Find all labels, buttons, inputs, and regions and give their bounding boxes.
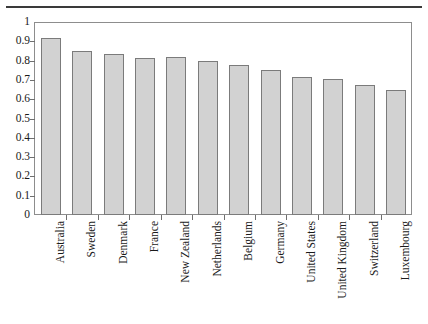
x-axis-tick-mark (381, 215, 382, 220)
bar (72, 51, 92, 215)
x-axis-tick-label: Germany (275, 221, 287, 264)
bar (229, 65, 249, 215)
x-axis-tick-mark (98, 215, 99, 220)
x-axis-tick-label: France (149, 221, 161, 252)
x-axis-tick-label: Luxembourg (400, 221, 412, 280)
x-axis-tick-mark (129, 215, 130, 220)
x-axis-tick-mark (192, 215, 193, 220)
bar (386, 90, 406, 215)
x-axis-tick-mark (349, 215, 350, 220)
x-axis-tick-mark (255, 215, 256, 220)
x-axis-tick-label: Denmark (118, 221, 130, 264)
plot-area (35, 23, 412, 215)
y-axis-tick-label: 0.6 (16, 93, 30, 105)
y-axis-tick-label: 0.9 (16, 36, 30, 48)
x-axis-tick-label: Netherlands (212, 221, 224, 277)
y-axis-tick-label: 0.7 (16, 74, 30, 86)
y-axis-tick-label: 1 (24, 16, 30, 28)
bar (41, 38, 61, 215)
x-axis-tick-label: New Zealand (180, 221, 192, 283)
bar (323, 79, 343, 215)
y-axis-tick-label: 0 (24, 209, 30, 221)
y-axis-tick-label: 0.1 (16, 190, 30, 202)
x-axis-tick-mark (318, 215, 319, 220)
bar (135, 58, 155, 215)
chart-figure: 00.10.20.30.40.50.60.70.80.91 AustraliaS… (0, 0, 428, 324)
bar (104, 54, 124, 215)
x-axis-tick-label: Switzerland (369, 221, 381, 276)
x-axis-tick-mark (286, 215, 287, 220)
y-axis-tick-mark (30, 138, 35, 139)
x-axis-tick-label: Australia (55, 221, 67, 263)
y-axis-tick-label: 0.5 (16, 113, 30, 125)
y-axis-tick-label: 0.4 (16, 132, 30, 144)
y-axis-tick-mark (30, 119, 35, 120)
y-axis-tick-label: 0.8 (16, 55, 30, 67)
y-axis-tick-mark (30, 176, 35, 177)
x-axis-tick-label: Sweden (86, 221, 98, 257)
y-axis-tick-mark (30, 41, 35, 42)
y-axis-tick-mark (30, 196, 35, 197)
y-axis-tick-mark (30, 80, 35, 81)
y-axis-tick-mark (30, 61, 35, 62)
y-axis-tick-label: 0.2 (16, 171, 30, 183)
x-axis-tick-label: Belgium (243, 221, 255, 261)
x-axis-tick-label: United Kingdom (337, 221, 349, 299)
y-axis-tick-label: 0.3 (16, 151, 30, 163)
y-axis-labels: 00.10.20.30.40.50.60.70.80.91 (0, 22, 30, 215)
bar (261, 70, 281, 215)
bar (355, 85, 375, 215)
x-axis-tick-label: United States (306, 221, 318, 283)
bar (166, 57, 186, 215)
x-axis-tick-mark (161, 215, 162, 220)
header-rule (6, 6, 422, 8)
x-axis-tick-mark (66, 215, 67, 220)
y-axis-tick-mark (30, 157, 35, 158)
y-axis-tick-mark (30, 99, 35, 100)
bar (292, 77, 312, 215)
x-axis-labels: AustraliaSwedenDenmarkFranceNew ZealandN… (35, 221, 412, 321)
bar (198, 61, 218, 215)
x-axis-tick-mark (224, 215, 225, 220)
